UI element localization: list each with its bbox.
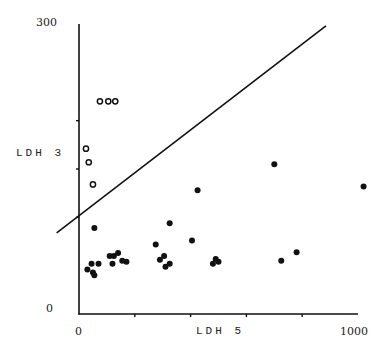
open-circle-point <box>113 99 118 104</box>
filled-circle-point <box>115 250 121 256</box>
filled-circle-point <box>189 238 195 244</box>
x-max-label: 1000 <box>340 325 368 338</box>
filled-circle-point <box>84 267 90 273</box>
open-circle-point <box>90 182 95 187</box>
filled-circle-point <box>91 272 97 278</box>
filled-circle-point <box>167 220 173 226</box>
filled-circle-point <box>109 261 115 267</box>
y-min-label: 0 <box>46 302 53 315</box>
filled-circle-point <box>195 187 201 193</box>
filled-circle-point <box>96 261 102 267</box>
x-axis-label: LDH 5 <box>196 325 244 337</box>
open-circle-point <box>86 160 91 165</box>
filled-circle-point <box>89 261 95 267</box>
x-min-label: 0 <box>75 325 82 338</box>
filled-circle-point <box>153 241 159 247</box>
axes <box>76 24 358 317</box>
filled-circle-point <box>294 249 300 255</box>
data-points <box>83 99 366 279</box>
scatter-plot <box>0 0 380 356</box>
y-max-label: 300 <box>36 16 57 29</box>
open-circle-point <box>83 146 88 151</box>
filled-circle-point <box>167 261 173 267</box>
open-circle-point <box>97 99 102 104</box>
y-axis-label: LDH 3 <box>16 147 64 159</box>
filled-circle-point <box>91 225 97 231</box>
filled-circle-point <box>216 259 222 265</box>
open-circle-point <box>106 99 111 104</box>
filled-circle-point <box>278 258 284 264</box>
reference-line <box>57 26 326 233</box>
filled-circle-point <box>161 253 167 259</box>
filled-circle-point <box>361 183 367 189</box>
filled-circle-point <box>123 259 129 265</box>
filled-circle-point <box>271 161 277 167</box>
